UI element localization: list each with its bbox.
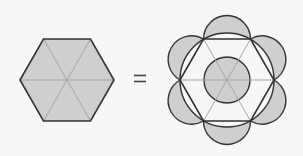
right-hexagon-spokes	[180, 39, 274, 121]
left-hexagon	[20, 39, 114, 121]
hexagon-lune-diagram	[0, 0, 303, 156]
equals-sign	[134, 76, 146, 82]
right-figure	[168, 15, 286, 144]
